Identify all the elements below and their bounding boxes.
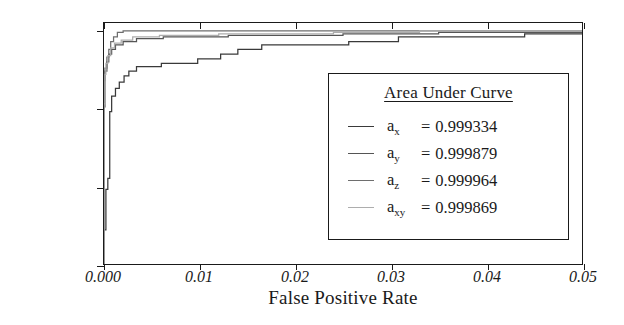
legend-line-swatch (348, 153, 374, 154)
y-tick (97, 188, 104, 189)
legend-auc-value: 0.999334 (435, 117, 497, 137)
x-tick-label: 0.01 (185, 268, 213, 286)
legend-equals: = (421, 117, 430, 137)
legend-box: Area Under Curve ax=0.999334ay=0.999879a… (328, 73, 569, 240)
x-tick-top (104, 23, 105, 29)
legend-auc-value: 0.999879 (435, 144, 497, 164)
x-tick-top (296, 23, 297, 29)
x-tick-label: 0.05 (569, 268, 597, 286)
legend-symbol: ay (387, 143, 421, 164)
legend-line-swatch (348, 126, 374, 127)
legend-equals: = (421, 171, 430, 191)
y-axis-title: True Positive Rate (0, 0, 20, 44)
y-tick (97, 266, 104, 267)
legend-entry-az: az=0.999964 (329, 167, 568, 194)
legend-title: Area Under Curve (329, 83, 568, 103)
x-tick-label: 0.04 (473, 268, 501, 286)
x-tick-top (392, 23, 393, 29)
x-tick-top (488, 23, 489, 29)
legend-entry-ay: ay=0.999879 (329, 140, 568, 167)
legend-symbol: ax (387, 116, 421, 137)
x-tick-label: 0.02 (281, 268, 309, 286)
legend-line-swatch (348, 207, 374, 208)
legend-equals: = (421, 144, 430, 164)
x-axis-title: False Positive Rate (103, 287, 583, 309)
legend-auc-value: 0.999869 (435, 198, 497, 218)
legend-symbol: az (387, 170, 421, 191)
legend-entries: ax=0.999334ay=0.999879az=0.999964axy=0.9… (329, 113, 568, 221)
legend-entry-ax: ax=0.999334 (329, 113, 568, 140)
roc-curve-figure: True Positive Rate 1.00.950.900.85 0.000… (0, 0, 624, 325)
x-tick-label: 0.000 (85, 268, 121, 286)
x-tick-top (584, 23, 585, 29)
legend-symbol: axy (387, 197, 421, 218)
x-tick-label: 0.03 (377, 268, 405, 286)
x-tick-top (200, 23, 201, 29)
legend-entry-axy: axy=0.999869 (329, 194, 568, 221)
legend-auc-value: 0.999964 (435, 171, 497, 191)
y-tick (97, 109, 104, 110)
legend-equals: = (421, 198, 430, 218)
legend-line-swatch (348, 180, 374, 181)
y-tick (97, 31, 104, 32)
